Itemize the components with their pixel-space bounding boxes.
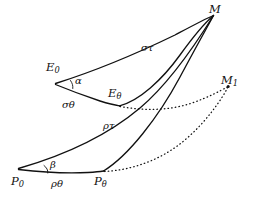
- angle-arc-alpha: [71, 81, 73, 89]
- arc-label-sigma-theta: σθ: [62, 100, 75, 110]
- point-label-m1: M1: [221, 75, 238, 88]
- curve-e-theta-to-m: [120, 16, 214, 106]
- point-label-p-theta-subscript: θ: [102, 179, 107, 189]
- point-label-m: M: [209, 4, 221, 16]
- arc-label-rho-tau: ρτ: [103, 121, 114, 131]
- arc-label-sigma-tau: στ: [141, 43, 153, 53]
- point-label-e0: E0: [46, 62, 60, 75]
- angle-label-beta: β: [50, 160, 56, 170]
- point-label-e-theta-subscript: θ: [116, 91, 121, 101]
- angle-label-alpha: α: [75, 76, 82, 86]
- point-label-p0: P0: [11, 176, 24, 189]
- point-label-p0-subscript: 0: [19, 179, 24, 189]
- diagram-canvas: [0, 0, 259, 203]
- arc-label-rho-theta: ρθ: [51, 179, 63, 189]
- curve-sigma-tau: [56, 16, 214, 84]
- point-label-e-theta: Eθ: [108, 88, 121, 101]
- point-label-e0-subscript: 0: [54, 65, 59, 75]
- point-label-p-theta: Pθ: [94, 176, 107, 189]
- point-label-m1-subscript: 1: [233, 78, 238, 88]
- curve-rho-theta: [19, 170, 104, 173]
- geometry-diagram: M M1 E0 Eθ P0 Pθ στ σθ ρτ ρθ α β: [0, 0, 259, 203]
